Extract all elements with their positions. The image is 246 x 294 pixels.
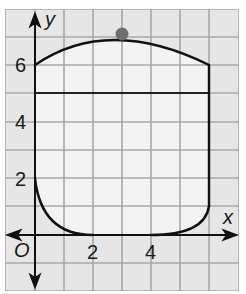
x-tick-2: 2 bbox=[87, 241, 98, 263]
y-axis-label: y bbox=[43, 8, 56, 30]
highlighted-point bbox=[116, 28, 129, 41]
x-axis-label: x bbox=[222, 206, 234, 228]
y-tick-4: 4 bbox=[15, 111, 26, 133]
y-tick-2: 2 bbox=[15, 168, 26, 190]
y-tick-6: 6 bbox=[15, 54, 26, 76]
coordinate-graph: y x O 6 4 2 2 4 bbox=[0, 0, 246, 294]
origin-label: O bbox=[14, 239, 30, 261]
x-tick-4: 4 bbox=[145, 241, 156, 263]
